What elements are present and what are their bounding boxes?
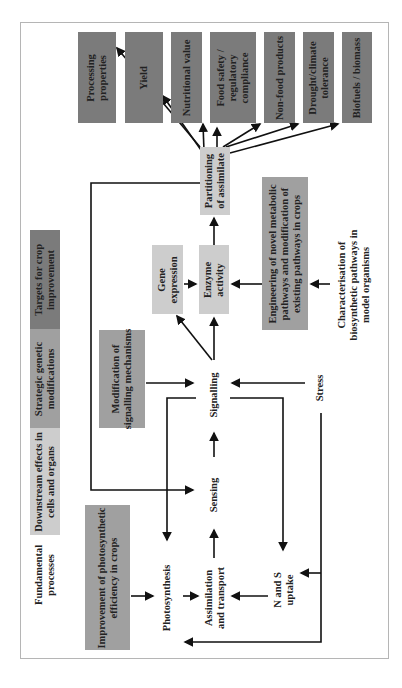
label: Engineering of novel metabolic [267,184,279,323]
n-s-uptake-node: N and Suptake [268,560,300,620]
label: activity [214,261,226,297]
target-biofuels-biomass: Biofuels / biomass [342,32,372,123]
sensing-node: Sensing [199,460,229,530]
legend-targets: Targets for crop improvement [30,230,60,329]
label: of assimilate [215,153,227,209]
label: biosynthetic pathways in [348,230,360,341]
label: Nutritional value [181,39,193,116]
label: properties [97,54,109,102]
label: Photosynthesis [161,564,173,631]
label: Non-food products [274,35,286,119]
label: Modification of [110,329,122,430]
label: Stress [314,374,326,401]
label: Drought/climate [307,41,319,114]
label: Yield [138,66,150,90]
assimilation-transport-node: Assimilationand transport [198,560,232,635]
label: existing pathways in crops [291,184,303,323]
target-food-safety: Food safety /regulatorycompliance [210,32,256,123]
label: Assimilation [203,566,215,628]
label: Food safety / [215,49,227,106]
signalling-node: Signalling [199,360,229,430]
modification-of-signalling: Modification ofsignalling mechanisms [99,330,145,428]
label: N and S [272,572,284,608]
label: Signalling [208,373,220,418]
target-yield: Yield [125,32,163,123]
label: Gene [156,256,168,303]
partitioning-of-assimilate: Partitioningof assimilate [200,147,230,215]
label: Biofuels / biomass [351,37,363,118]
label: Improvement of photosynthetic [96,507,108,648]
improvement-photosynthetic-efficiency: Improvement of photosyntheticefficiency … [85,505,130,650]
label: Partitioning [203,153,215,209]
label: Enzyme [202,261,214,297]
stress-node: Stress [305,365,335,410]
enzyme-activity: Enzymeactivity [199,245,229,314]
target-drought-tolerance: Drought/climatetolerance [303,32,334,123]
label: Strategic genetic modifications [33,335,57,423]
legend-fundamental: Fundamental processes [30,545,60,605]
label: model organisms [360,230,372,341]
label: Fundamental processes [33,545,57,605]
label: uptake [284,572,296,608]
legend-downstream: Downstream effects in cells and organs [30,428,60,535]
label: Targets for crop improvement [33,236,57,324]
label: Processing [85,54,97,102]
gene-expression: Geneexpression [152,245,183,314]
target-non-food-products: Non-food products [264,32,295,123]
label: and transport [215,566,227,628]
label: pathways and modification of [279,184,291,323]
engineering-metabolic-pathways: Engineering of novel metabolicpathways a… [262,177,308,330]
label: expression [168,256,180,303]
label: signalling mechanisms [122,329,134,430]
target-processing-properties: Processingproperties [78,32,116,123]
label: Downstream effects in cells and organs [33,432,57,532]
label: Characterisation of [336,230,348,341]
label: tolerance [319,41,331,114]
label: efficiency in crops [108,507,120,648]
label: compliance [239,49,251,106]
label: regulatory [227,49,239,106]
characterisation-biosynthetic-pathways: Characterisation ofbiosynthetic pathways… [330,225,378,345]
photosynthesis-node: Photosynthesis [152,560,182,635]
legend-strategic: Strategic genetic modifications [30,329,60,428]
target-nutritional-value: Nutritional value [171,32,202,123]
label: Sensing [208,478,220,512]
